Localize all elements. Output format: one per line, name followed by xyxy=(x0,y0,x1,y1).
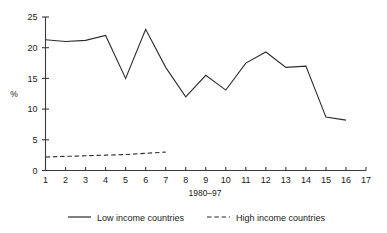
y-tick-label: 5 xyxy=(32,135,37,145)
y-axis-title: % xyxy=(10,89,18,99)
x-tick-label: 7 xyxy=(163,175,168,185)
x-tick-label: 10 xyxy=(221,175,231,185)
x-tick-label: 1 xyxy=(43,175,48,185)
legend: Low income countries High income countri… xyxy=(68,213,326,223)
series-low-income-line xyxy=(46,29,346,120)
x-tick-label: 8 xyxy=(183,175,188,185)
x-axis-ticks: 1234567891011121314151617 xyxy=(43,167,371,185)
y-tick-label: 25 xyxy=(27,12,37,22)
x-tick-label: 3 xyxy=(83,175,88,185)
legend-label-low-income: Low income countries xyxy=(97,213,185,223)
y-tick-label: 20 xyxy=(27,43,37,53)
legend-item-high-income: High income countries xyxy=(207,213,326,223)
x-tick-label: 6 xyxy=(143,175,148,185)
x-tick-label: 17 xyxy=(361,175,371,185)
x-tick-label: 12 xyxy=(261,175,271,185)
y-tick-label: 0 xyxy=(32,166,37,176)
x-axis-title: 1980–97 xyxy=(188,188,221,198)
legend-item-low-income: Low income countries xyxy=(68,213,185,223)
y-tick-label: 10 xyxy=(27,104,37,114)
x-tick-label: 14 xyxy=(301,175,311,185)
series-high-income-line xyxy=(46,152,166,157)
x-tick-label: 9 xyxy=(203,175,208,185)
x-tick-label: 11 xyxy=(241,175,250,185)
y-tick-label: 15 xyxy=(27,74,37,84)
line-chart: % 0510152025 1234567891011121314151617 1… xyxy=(0,0,387,233)
x-tick-label: 16 xyxy=(341,175,351,185)
x-tick-label: 2 xyxy=(63,175,68,185)
legend-label-high-income: High income countries xyxy=(236,213,326,223)
x-tick-label: 5 xyxy=(123,175,128,185)
x-tick-label: 4 xyxy=(103,175,108,185)
x-tick-label: 13 xyxy=(281,175,291,185)
x-tick-label: 15 xyxy=(321,175,331,185)
